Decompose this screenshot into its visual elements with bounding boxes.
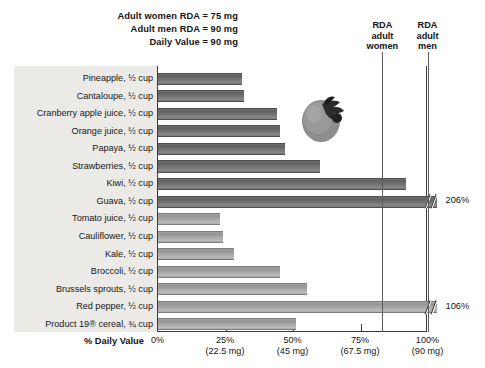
table-row: Kale, ½ cup (0, 246, 485, 264)
tick-label-50: 50%(45 mg) (263, 335, 323, 358)
category-label: Kale, ½ cup (14, 249, 153, 260)
category-label: Cranberry apple juice, ½ cup (14, 108, 153, 119)
table-row: Cantaloupe, ½ cup (0, 88, 485, 106)
rda-adult-men-line (428, 52, 429, 332)
bar (158, 143, 285, 155)
category-label: Red pepper, ½ cup (14, 301, 153, 312)
bar (158, 231, 223, 243)
rda-adult-men-caption-line-3: men (401, 41, 455, 52)
tick-label-0: 0% (128, 335, 188, 346)
tick-label-25: 25%(22.5 mg) (195, 335, 255, 358)
tick-percent: 100% (416, 335, 439, 345)
bar-value-label: 106% (445, 300, 469, 311)
vitamin-c-chart: Adult women RDA = 75 mg Adult men RDA = … (0, 0, 485, 368)
note-men-rda: Adult men RDA = 90 mg (0, 23, 238, 36)
header-notes: Adult women RDA = 75 mg Adult men RDA = … (0, 10, 238, 50)
tick-milligrams: (22.5 mg) (195, 346, 255, 357)
tick-percent: 75% (351, 335, 369, 345)
bar (158, 266, 280, 278)
tick-label-100: 100%(90 mg) (398, 335, 458, 358)
bar (158, 73, 242, 85)
category-label: Strawberries, ½ cup (14, 161, 153, 172)
note-daily-value: Daily Value = 90 mg (0, 36, 238, 49)
table-row: Cauliflower, ½ cup (0, 228, 485, 246)
rda-adult-women-line (382, 52, 383, 332)
tick-milligrams: (90 mg) (398, 346, 458, 357)
table-row: Tomato juice, ½ cup (0, 211, 485, 229)
bar (158, 248, 234, 260)
table-row: Broccoli, ½ cup (0, 264, 485, 282)
bar (158, 178, 406, 190)
bar (158, 283, 307, 295)
table-row: Papaya, ½ cup (0, 141, 485, 159)
bar (158, 318, 296, 330)
bar (158, 196, 437, 208)
bar (158, 301, 437, 313)
category-label: Papaya, ½ cup (14, 143, 153, 154)
tick-milligrams: (45 mg) (263, 346, 323, 357)
bar-value-label: 206% (445, 194, 469, 205)
tick-label-75: 75%(67.5 mg) (330, 335, 390, 358)
bar (158, 125, 280, 137)
category-label: Product 19® cereal, ¾ cup (14, 319, 153, 330)
table-row: Strawberries, ½ cup (0, 158, 485, 176)
category-label: Brussels sprouts, ½ cup (14, 284, 153, 295)
tick-percent: 50% (283, 335, 301, 345)
bar (158, 108, 277, 120)
category-label: Guava, ½ cup (14, 196, 153, 207)
category-label: Pineapple, ½ cup (14, 73, 153, 84)
table-row: Brussels sprouts, ½ cup (0, 281, 485, 299)
table-row: Pineapple, ½ cup (0, 71, 485, 89)
rda-adult-men-caption: RDAadultmen (401, 20, 455, 52)
bar (158, 90, 244, 102)
category-label: Tomato juice, ½ cup (14, 213, 153, 224)
category-label: Kiwi, ½ cup (14, 178, 153, 189)
table-row: Orange juice, ½ cup (0, 123, 485, 141)
category-label: Cantaloupe, ½ cup (14, 91, 153, 102)
bar (158, 213, 220, 225)
rda-adult-men-caption-line-2: adult (401, 31, 455, 42)
strawberry-illustration (296, 88, 352, 150)
table-row: Kiwi, ½ cup (0, 176, 485, 194)
category-label: Cauliflower, ½ cup (14, 231, 153, 242)
tick-milligrams: (67.5 mg) (330, 346, 390, 357)
tick-percent: 25% (216, 335, 234, 345)
rda-adult-men-caption-line-1: RDA (401, 20, 455, 31)
table-row: Guava, ½ cup206% (0, 193, 485, 211)
category-label: Orange juice, ½ cup (14, 126, 153, 137)
table-row: Red pepper, ½ cup106% (0, 299, 485, 317)
table-row: Product 19® cereal, ¾ cup (0, 316, 485, 334)
category-label: Broccoli, ½ cup (14, 266, 153, 277)
table-row: Cranberry apple juice, ½ cup (0, 106, 485, 124)
tick-percent: 0% (151, 335, 164, 345)
bar (158, 160, 320, 172)
note-women-rda: Adult women RDA = 75 mg (0, 10, 238, 23)
